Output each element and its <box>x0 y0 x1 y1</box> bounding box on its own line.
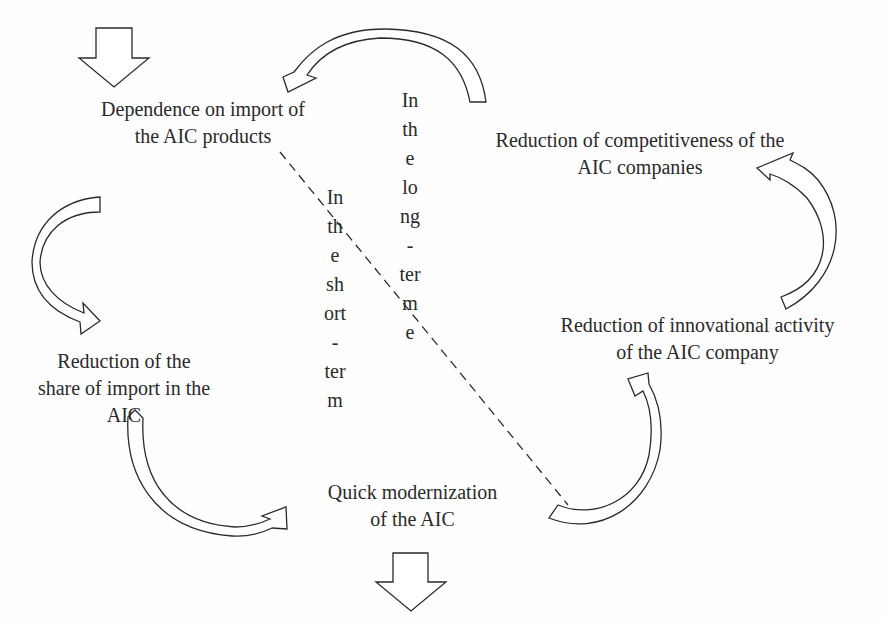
label-short-term: In th e sh ort - ter m <box>315 183 355 415</box>
label-fragment: th <box>315 212 355 241</box>
curved-arrow-left <box>32 197 100 334</box>
label-fragment: - <box>390 231 430 260</box>
label-fragment: ter <box>390 260 430 289</box>
label-fragment: m <box>390 289 430 318</box>
node-text-line: the AIC products <box>73 123 333 150</box>
diagram-canvas: Dependence on import of the AIC products… <box>0 0 886 621</box>
label-long-term: In th e lo ng - ter m e <box>390 86 430 347</box>
node-text-line: Reduction of the <box>8 348 240 375</box>
label-fragment: - <box>315 328 355 357</box>
node-text-line: of the AIC <box>300 506 525 533</box>
node-text-line: Reduction of competitiveness of the <box>455 127 825 154</box>
node-text-line: Quick modernization <box>300 479 525 506</box>
node-text-line: AIC <box>8 402 240 429</box>
node-dependence-on-import: Dependence on import of the AIC products <box>73 96 333 150</box>
label-fragment: In <box>315 183 355 212</box>
node-reduction-share-import: Reduction of the share of import in the … <box>8 348 240 429</box>
down-arrow-icon-top <box>79 28 149 87</box>
label-fragment: sh <box>315 270 355 299</box>
label-fragment: e <box>315 241 355 270</box>
label-fragment: m <box>315 386 355 415</box>
label-fragment: e <box>390 144 430 173</box>
node-reduction-competitiveness: Reduction of competitiveness of the AIC … <box>455 127 825 181</box>
node-reduction-innovation: Reduction of innovational activity of th… <box>525 312 870 366</box>
node-text-line: Dependence on import of <box>73 96 333 123</box>
curved-arrow-bottom-right <box>549 373 661 524</box>
node-text-line: Reduction of innovational activity <box>525 312 870 339</box>
node-text-line: of the AIC company <box>525 339 870 366</box>
label-fragment: e <box>390 318 430 347</box>
label-fragment: th <box>390 115 430 144</box>
label-fragment: In <box>390 86 430 115</box>
label-fragment: lo <box>390 173 430 202</box>
node-quick-modernization: Quick modernization of the AIC <box>300 479 525 533</box>
node-text-line: AIC companies <box>455 154 825 181</box>
curved-arrow-top <box>283 29 486 102</box>
label-fragment: ter <box>315 357 355 386</box>
down-arrow-icon-bottom <box>376 553 446 611</box>
node-text-line: share of import in the <box>8 375 240 402</box>
label-fragment: ort <box>315 299 355 328</box>
label-fragment: ng <box>390 202 430 231</box>
